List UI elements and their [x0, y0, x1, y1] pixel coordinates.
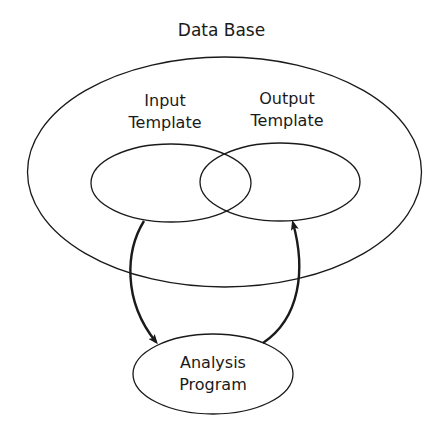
input-template-ellipse [91, 144, 251, 222]
arrow-input-to-analysis [130, 221, 156, 342]
input-template-label-line2: Template [110, 112, 220, 134]
database-ellipse [28, 57, 422, 287]
output-template-label-line1: Output [232, 88, 342, 110]
analysis-program-label: Analysis Program [158, 352, 268, 396]
analysis-program-label-line1: Analysis [158, 352, 268, 374]
output-template-label: Output Template [232, 88, 342, 132]
input-template-label-line1: Input [110, 90, 220, 112]
output-template-label-line2: Template [232, 110, 342, 132]
analysis-program-label-line2: Program [158, 374, 268, 396]
input-template-label: Input Template [110, 90, 220, 134]
output-template-ellipse [200, 143, 360, 221]
arrow-analysis-to-output [263, 223, 299, 343]
database-label: Data Base [0, 19, 443, 41]
